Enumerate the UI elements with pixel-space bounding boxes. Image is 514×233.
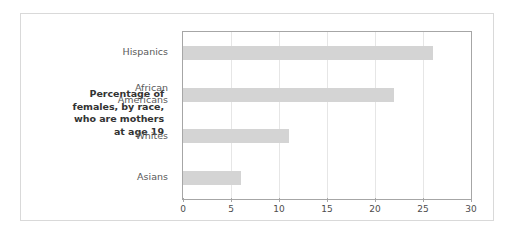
category-label-african-americans: AfricanAmericans [42, 73, 182, 115]
x-tick-label-10: 10 [273, 204, 284, 214]
x-tick-label-20: 20 [369, 204, 380, 214]
plot-area [182, 31, 472, 200]
bar-row [183, 116, 471, 158]
category-label-text-2: Americans [118, 94, 175, 105]
category-label-text: Whites [135, 130, 175, 141]
bar-row [183, 32, 471, 74]
figure-frame: Percentage of females, by race, who are … [20, 13, 494, 221]
x-tick-label-5: 5 [228, 204, 234, 214]
category-label-hispanics: Hispanics [42, 31, 182, 73]
x-tick-label-0: 0 [180, 204, 186, 214]
bar-row [183, 74, 471, 116]
x-tick-mark-20 [375, 198, 376, 202]
x-tick-mark-10 [279, 198, 280, 202]
category-label-text: Hispanics [123, 46, 175, 57]
x-tick-label-30: 30 [465, 204, 476, 214]
bar-african-americans[interactable] [183, 88, 394, 102]
x-tick-mark-30 [471, 198, 472, 202]
category-axis-labels: Hispanics AfricanAmericans Whites Asians [42, 31, 182, 198]
bar-asians[interactable] [183, 171, 241, 185]
x-tick-mark-15 [327, 198, 328, 202]
x-tick-label-15: 15 [321, 204, 332, 214]
x-tick-label-25: 25 [417, 204, 428, 214]
x-tick-mark-25 [423, 198, 424, 202]
bar-whites[interactable] [183, 129, 289, 143]
x-tick-mark-5 [231, 198, 232, 202]
category-label-asians: Asians [42, 156, 182, 198]
category-label-whites: Whites [42, 115, 182, 157]
category-label-text: Asians [137, 171, 175, 182]
category-label-text: African [135, 82, 175, 93]
bar-row [183, 157, 471, 199]
x-axis: 051015202530 [182, 198, 472, 222]
bar-hispanics[interactable] [183, 46, 433, 60]
x-tick-mark-0 [183, 198, 184, 202]
